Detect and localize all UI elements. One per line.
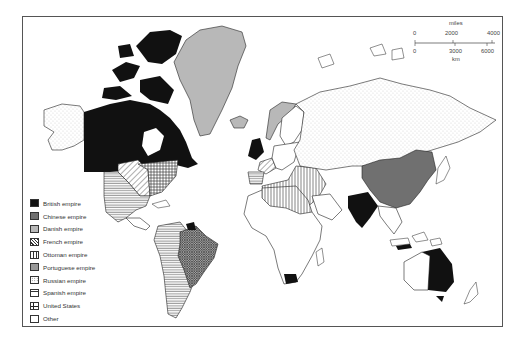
region-iberia (248, 172, 264, 184)
scale-km-tick-0: 0 (413, 48, 416, 54)
swatch-blank-icon (30, 315, 39, 323)
swatch-light-gray-icon (30, 225, 39, 233)
legend-label: Ottoman empire (43, 251, 87, 258)
region-canada (84, 100, 198, 172)
swatch-horizontal-lines-icon (30, 289, 39, 297)
region-britain (248, 138, 264, 160)
region-alaska (44, 104, 84, 150)
swatch-solid-black-icon (30, 199, 39, 207)
scale-ruler (405, 38, 505, 48)
swatch-cross-hatch-icon (30, 263, 39, 271)
map-legend: British empire Chinese empire Danish emp… (30, 197, 95, 325)
legend-item-russian: Russian empire (30, 274, 95, 287)
swatch-vertical-lines-icon (30, 251, 39, 259)
scale-miles-tick-4000: 4000 (487, 30, 500, 36)
legend-label: Danish empire (43, 225, 83, 232)
legend-label: Portuguese empire (43, 264, 95, 271)
legend-label: Chinese empire (43, 213, 86, 220)
legend-item-chinese: Chinese empire (30, 210, 95, 223)
legend-item-ottoman: Ottoman empire (30, 248, 95, 261)
region-india (348, 192, 378, 228)
legend-label: Russian empire (43, 277, 86, 284)
legend-label: Spanish empire (43, 289, 86, 296)
region-australia-west (404, 252, 430, 290)
swatch-diagonal-hatch-icon (30, 238, 39, 246)
scale-miles-tick-0: 0 (413, 30, 416, 36)
swatch-dark-gray-icon (30, 212, 39, 220)
scale-km-tick-6000: 6000 (481, 48, 494, 54)
legend-item-french: French empire (30, 235, 95, 248)
swatch-grid-icon (30, 302, 39, 310)
legend-label: French empire (43, 238, 83, 245)
legend-label: United States (43, 302, 80, 309)
legend-item-british: British empire (30, 197, 95, 210)
scale-miles-tick-2000: 2000 (445, 30, 458, 36)
region-arctic-islands (102, 30, 182, 104)
legend-item-spanish: Spanish empire (30, 287, 95, 300)
scale-km-tick-3000: 3000 (449, 48, 462, 54)
legend-label: British empire (43, 200, 81, 207)
legend-label: Other (43, 315, 58, 322)
scale-miles-label: miles (449, 20, 463, 26)
scale-km-label: km (452, 56, 460, 62)
swatch-dotted-icon (30, 276, 39, 284)
region-russia (294, 78, 496, 170)
scale-bar: miles 0 2000 4000 0 3000 6000 km (405, 18, 505, 68)
legend-item-portuguese: Portuguese empire (30, 261, 95, 274)
legend-item-other: Other (30, 312, 95, 325)
legend-item-danish: Danish empire (30, 223, 95, 236)
legend-item-united-states: United States (30, 299, 95, 312)
